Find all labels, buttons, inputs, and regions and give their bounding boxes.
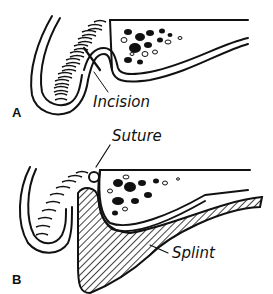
incision-label: Incision: [93, 93, 150, 111]
suture-icon: [89, 172, 99, 182]
panel-a-drawing: [0, 0, 273, 147]
splint-label: Splint: [172, 244, 215, 262]
panel-a-letter: A: [12, 105, 21, 120]
suture-label: Suture: [112, 127, 162, 145]
splint-shape: [78, 188, 262, 293]
panel-b-letter: B: [12, 272, 21, 287]
panel-a: Incision A: [0, 0, 273, 147]
panel-b-drawing: [0, 135, 273, 294]
panel-b: Suture Splint B: [0, 135, 273, 294]
